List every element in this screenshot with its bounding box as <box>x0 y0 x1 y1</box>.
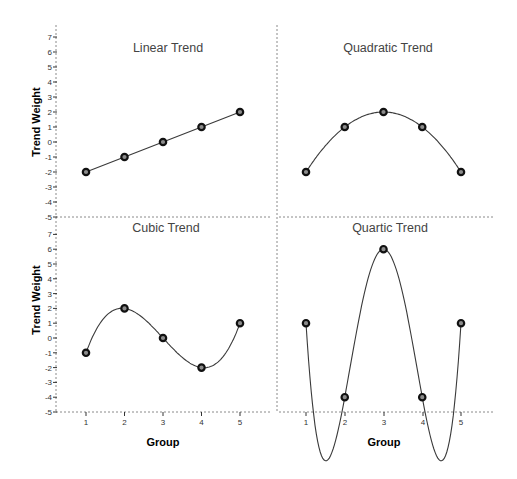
y-tick-label: 6 <box>48 245 53 254</box>
data-point-marker <box>121 305 127 311</box>
chart-canvas: Trend Weight Trend Weight Group Group Li… <box>0 0 517 479</box>
y-tick-label: 1 <box>48 319 53 328</box>
y-tick-label: 0 <box>48 334 53 343</box>
x-axis-ticks-left: 12345 <box>84 412 243 427</box>
y-tick-label: -1 <box>45 349 53 358</box>
y-tick-label: 4 <box>48 275 53 284</box>
data-point-marker <box>198 124 204 130</box>
quartic-trend-series <box>303 246 464 461</box>
y-tick-label: 1 <box>48 123 53 132</box>
y-axis-ticks-bottom: 76543210-1-2-3-4-5 <box>45 230 57 417</box>
y-tick-label: -1 <box>45 153 53 162</box>
trend-curve <box>306 112 461 172</box>
data-point-marker <box>160 335 166 341</box>
trend-curve <box>306 249 461 461</box>
x-tick-label: 3 <box>161 418 166 427</box>
y-tick-label: 4 <box>48 78 53 87</box>
x-tick-label: 5 <box>238 418 243 427</box>
y-tick-label: -3 <box>45 378 53 387</box>
y-tick-label: -5 <box>45 213 53 222</box>
y-axis-title-bottom: Trend Weight <box>30 265 42 335</box>
data-point-marker <box>342 124 348 130</box>
y-tick-label: 5 <box>48 260 53 269</box>
y-tick-label: -2 <box>45 168 53 177</box>
data-point-marker <box>237 109 243 115</box>
x-tick-label: 1 <box>84 418 89 427</box>
y-tick-label: 7 <box>48 230 53 239</box>
y-tick-label: 0 <box>48 138 53 147</box>
data-point-marker <box>458 320 464 326</box>
y-tick-label: -3 <box>45 183 53 192</box>
y-tick-label: -2 <box>45 364 53 373</box>
panel-title-quadratic: Quadratic Trend <box>343 41 433 55</box>
x-tick-label: 5 <box>459 418 464 427</box>
panel-title-cubic: Cubic Trend <box>132 221 199 235</box>
data-point-marker <box>160 139 166 145</box>
data-point-marker <box>303 169 309 175</box>
data-point-marker <box>83 169 89 175</box>
y-tick-label: 5 <box>48 63 53 72</box>
data-point-marker <box>83 350 89 356</box>
linear-trend-series <box>83 109 243 175</box>
trend-weights-figure: Trend Weight Trend Weight Group Group Li… <box>0 0 517 479</box>
data-point-marker <box>121 154 127 160</box>
x-tick-label: 1 <box>304 418 309 427</box>
x-axis-title-left: Group <box>147 436 180 448</box>
y-tick-label: 2 <box>48 108 53 117</box>
y-tick-label: -4 <box>45 198 53 207</box>
data-point-marker <box>303 320 309 326</box>
y-tick-label: 3 <box>48 290 53 299</box>
x-axis-title-right: Group <box>368 436 401 448</box>
data-point-marker <box>419 124 425 130</box>
y-tick-label: 2 <box>48 304 53 313</box>
data-point-marker <box>342 394 348 400</box>
cubic-trend-series <box>83 305 243 371</box>
x-tick-label: 3 <box>382 418 387 427</box>
y-tick-label: -4 <box>45 393 53 402</box>
y-axis-ticks-top: 76543210-1-2-3-4-5 <box>45 33 57 222</box>
panel-title-linear: Linear Trend <box>133 41 203 55</box>
y-tick-label: 7 <box>48 33 53 42</box>
data-point-marker <box>458 169 464 175</box>
data-point-marker <box>380 246 386 252</box>
x-axis-ticks-right: 12345 <box>304 412 464 427</box>
x-tick-label: 4 <box>421 418 426 427</box>
data-point-marker <box>237 320 243 326</box>
data-point-marker <box>380 109 386 115</box>
y-tick-label: -5 <box>45 408 53 417</box>
x-tick-label: 2 <box>343 418 348 427</box>
y-axis-title-top: Trend Weight <box>30 87 42 157</box>
y-tick-label: 6 <box>48 48 53 57</box>
y-tick-label: 3 <box>48 93 53 102</box>
data-point-marker <box>419 394 425 400</box>
panel-title-quartic: Quartic Trend <box>352 221 428 235</box>
quadratic-trend-series <box>303 109 464 175</box>
data-point-marker <box>198 364 204 370</box>
x-tick-label: 4 <box>199 418 204 427</box>
x-tick-label: 2 <box>122 418 127 427</box>
